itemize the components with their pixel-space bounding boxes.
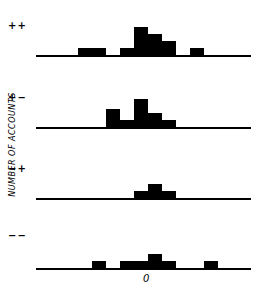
histogram-bar [134, 27, 148, 55]
histogram-bar [134, 191, 148, 198]
histogram-bar [162, 261, 176, 268]
x-tick-zero: 0 [143, 273, 149, 284]
histogram-bar [134, 99, 148, 127]
x-axis-line [36, 268, 251, 270]
histogram-bar [148, 34, 162, 55]
histogram-bar [190, 48, 204, 55]
histogram-bar [148, 254, 162, 268]
histogram-bar [78, 48, 92, 55]
x-axis-line [36, 198, 251, 200]
histogram-bar [120, 120, 134, 127]
histogram-bar [92, 261, 106, 268]
histogram-bar [162, 120, 176, 127]
histogram-bar [120, 48, 134, 55]
histogram-bar [162, 41, 176, 55]
y-axis-label: NUMBER OF ACCOUNTS [8, 75, 17, 215]
panel-label-pp: ++ [8, 20, 27, 31]
histogram-bar [162, 191, 176, 198]
panel-label-mm: −− [8, 230, 27, 241]
histogram-bar [134, 261, 148, 268]
histogram-bar [204, 261, 218, 268]
histogram-bar [148, 113, 162, 127]
histogram-bar [106, 109, 120, 127]
histogram-bar [92, 48, 106, 55]
histogram-bar [148, 184, 162, 198]
x-axis-line [36, 55, 251, 57]
histogram-bar [120, 261, 134, 268]
x-axis-line [36, 127, 251, 129]
